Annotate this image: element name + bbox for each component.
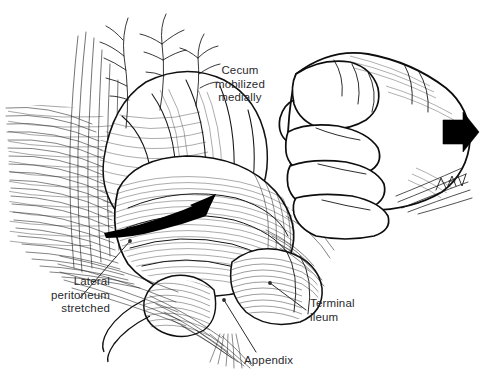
label-appendix: Appendix [244, 354, 324, 368]
label-lateral-peritoneum-stretched: Lateral peritoneum stretched [6, 275, 110, 316]
label-terminal-ileum: Terminal ileum [310, 297, 390, 324]
surgical-illustration-figure: Cecum mobilized medially Lateral periton… [0, 0, 487, 387]
illustration-artwork [0, 0, 487, 387]
label-cecum-mobilized-medially: Cecum mobilized medially [196, 64, 284, 105]
